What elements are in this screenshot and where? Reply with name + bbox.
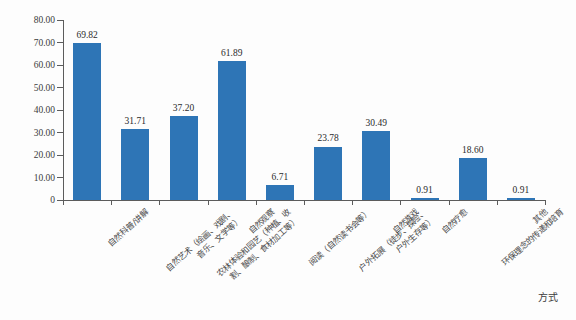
x-axis-title: 方式 [538,292,558,303]
bar-value-label: 31.71 [113,116,157,126]
y-axis-tick-mark [57,132,63,133]
x-axis-category-label: 自然科普/讲解 [106,207,151,249]
bar-chart-figure: 百分比（%） 010.0020.0030.0040.0050.0060.0070… [0,0,576,320]
y-axis-tick-mark [57,42,63,43]
y-axis-tick-label: 80.00 [5,15,55,25]
bar [73,43,101,200]
y-axis-tick-label: 70.00 [5,38,55,48]
bar-value-label: 61.89 [210,48,254,58]
bar [411,198,439,200]
y-axis-tick-mark [57,155,63,156]
bar-value-label: 30.49 [354,118,398,128]
x-axis-tick-mark [256,200,257,205]
x-axis-tick-mark [63,200,64,205]
bar [362,131,390,200]
bar [507,198,535,200]
bar-value-label: 69.82 [65,30,109,40]
y-axis-tick-mark [57,110,63,111]
x-axis-tick-mark [352,200,353,205]
y-axis-tick-mark [57,177,63,178]
x-axis-tick-mark [400,200,401,205]
bar [266,185,294,200]
y-axis-tick-label: 30.00 [5,128,55,138]
bar-value-label: 23.78 [306,133,350,143]
x-axis-tick-mark [159,200,160,205]
y-axis-tick-mark [57,65,63,66]
x-axis-tick-mark [304,200,305,205]
x-axis-category-label: 自然疗愈 [439,207,470,236]
bar [218,61,246,200]
y-axis-tick-label: 60.00 [5,60,55,70]
bar-value-label: 37.20 [162,103,206,113]
x-axis-tick-mark [497,200,498,205]
bar [314,147,342,201]
x-axis-tick-mark [545,200,546,205]
y-axis-tick-mark [57,87,63,88]
y-axis-tick-label: 10.00 [5,173,55,183]
x-axis-tick-mark [449,200,450,205]
bar-value-label: 0.91 [499,185,543,195]
bar-value-label: 0.91 [403,185,447,195]
y-axis-tick-label: 20.00 [5,150,55,160]
bar [170,116,198,200]
bar-value-label: 18.60 [451,145,495,155]
y-axis-tick-label: 50.00 [5,83,55,93]
y-axis-tick-mark [57,20,63,21]
y-axis-tick-label: 40.00 [5,105,55,115]
bar-value-label: 6.71 [258,172,302,182]
x-axis-tick-mark [208,200,209,205]
plot-area: 010.0020.0030.0040.0050.0060.0070.0080.0… [63,20,545,200]
bar [459,158,487,200]
x-axis-tick-mark [111,200,112,205]
bar [121,129,149,200]
y-axis-tick-label: 0 [5,195,55,205]
